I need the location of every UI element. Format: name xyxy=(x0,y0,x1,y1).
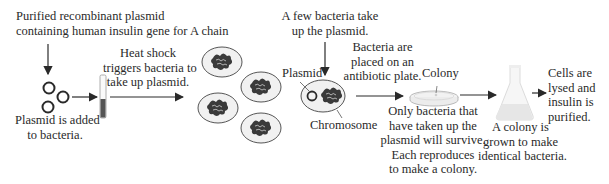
bacteria-cell-icon xyxy=(241,113,281,143)
label-line: take up plasmid. xyxy=(103,75,193,90)
plasmid-added-label: Plasmid is added to bacteria. xyxy=(15,113,95,142)
chromosome-callout: Chromosome xyxy=(310,118,377,133)
petri-dish-icon xyxy=(410,86,458,106)
label-line: grown to make xyxy=(478,135,563,150)
label-line: lysed and xyxy=(548,81,596,96)
selection-label: Only bacteria that have taken up the pla… xyxy=(378,104,488,177)
bacteria-cell-icon xyxy=(202,47,242,77)
bacteria-cell-icon xyxy=(241,72,281,102)
label-line: plasmid will survive. xyxy=(378,133,488,148)
few-take-up-label: A few bacteria take up the plasmid. xyxy=(280,9,380,38)
flask-icon xyxy=(496,65,533,120)
label-line: containing human insulin gene for A chai… xyxy=(16,24,228,39)
label-line: Purified recombinant plasmid xyxy=(16,9,228,24)
label-line: insulin is xyxy=(548,95,596,110)
label-line: antibiotic plate. xyxy=(340,69,425,84)
purify-label: Cells are lysed and insulin is purified. xyxy=(548,66,596,124)
plasmid-rings-icon xyxy=(43,83,69,113)
label-line: Cells are xyxy=(548,66,596,81)
bacteria-cell-icon xyxy=(198,93,238,123)
label-line: placed on an xyxy=(340,55,425,70)
label-line: Each reproduces xyxy=(378,148,488,163)
label-line: have taken up the xyxy=(378,119,488,134)
label-line: up the plasmid. xyxy=(280,24,380,39)
label-line: purified. xyxy=(548,110,596,125)
label-line: Heat shock xyxy=(103,46,193,61)
heat-shock-label: Heat shock triggers bacteria to take up … xyxy=(103,46,193,90)
colony-callout: Colony xyxy=(422,66,459,81)
label-line: A few bacteria take xyxy=(280,9,380,24)
label-line: identical bacteria. xyxy=(478,149,563,164)
label-line: Plasmid is added xyxy=(15,113,95,128)
label-line: to make a colony. xyxy=(378,162,488,177)
label-line: Only bacteria that xyxy=(378,104,488,119)
label-line: to bacteria. xyxy=(15,128,95,143)
plasmid-callout: Plasmid xyxy=(282,66,322,81)
plasmid-source-label: Purified recombinant plasmid containing … xyxy=(16,9,228,38)
transformed-bacterium-icon xyxy=(300,80,345,118)
label-line: triggers bacteria to xyxy=(103,61,193,76)
label-line: Bacteria are xyxy=(340,40,425,55)
grow-colony-label: A colony is grown to make identical bact… xyxy=(478,120,563,164)
antibiotic-plate-label: Bacteria are placed on an antibiotic pla… xyxy=(340,40,425,84)
